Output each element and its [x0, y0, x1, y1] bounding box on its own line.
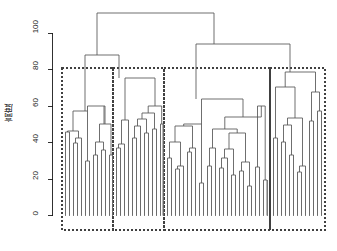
link-c1-12: [88, 106, 106, 124]
link-c4-11: [312, 92, 320, 121]
link-c4-6: [300, 166, 306, 216]
link-c3-7: [175, 126, 193, 148]
link-c2-11: [148, 106, 162, 124]
link-c3-15: [225, 149, 234, 175]
link-c3-18: [242, 162, 250, 186]
link-c4-5: [298, 172, 302, 216]
link-c3-17: [248, 186, 252, 216]
link-c2-6: [145, 133, 149, 216]
y-tick-label-80: 80: [32, 61, 42, 70]
link-c2-1: [117, 148, 121, 216]
link-c1-8: [102, 150, 106, 216]
y-tick-label-40: 40: [32, 134, 42, 143]
link-c3-1: [168, 158, 172, 216]
link-c1-7: [94, 155, 98, 216]
link-c1-3: [76, 138, 82, 216]
y-tick-label-100: 100: [32, 20, 42, 33]
link-c2-12: [125, 78, 155, 120]
link-c3-6: [190, 148, 196, 216]
dendrogram-plot: [0, 0, 337, 251]
link-c3-13: [222, 158, 228, 216]
link-c4-10: [318, 111, 322, 216]
y-tick-label-60: 60: [32, 98, 42, 107]
y-tick-label-20: 20: [32, 171, 42, 180]
link-c1-5: [86, 161, 90, 216]
link-c1-10: [110, 155, 113, 216]
link-c4-12: [285, 72, 315, 92]
link-root: [97, 13, 214, 55]
link-c4-1: [274, 138, 278, 216]
link-c1-1: [66, 132, 70, 216]
link-c3-12: [220, 168, 224, 216]
link-c4-2: [282, 142, 286, 216]
dendrogram-links: [66, 13, 322, 216]
y-axis: [48, 33, 53, 216]
link-c1-2: [74, 143, 78, 216]
link-c4-8: [276, 87, 296, 138]
link-c3-16: [240, 171, 244, 216]
link-c3-21: [256, 167, 260, 216]
link-c3-8: [200, 183, 204, 216]
y-axis-label: 高度: [4, 104, 34, 122]
link-c2-5: [135, 126, 141, 216]
link-c2-9: [142, 113, 155, 129]
link-c2-3: [122, 120, 129, 216]
link-c2-4: [133, 138, 137, 216]
link-c3-20: [213, 129, 238, 148]
link-c3-3: [178, 166, 184, 216]
link-c4-3: [290, 155, 294, 216]
link-c3-5: [188, 152, 192, 216]
link-c3-19: [229, 133, 246, 162]
link-c3-22: [264, 180, 268, 216]
link-c3-25: [202, 99, 244, 124]
link-c2-8: [153, 129, 157, 216]
link-c4-4: [284, 125, 292, 155]
link-c3-11: [210, 148, 216, 216]
link-left-super: [85, 55, 119, 111]
link-c4-9: [310, 121, 314, 216]
dendrogram-figure: 高度 0 20 40 60 80 100: [0, 0, 337, 251]
link-c3-10: [208, 166, 212, 216]
link-c3-14: [232, 175, 236, 216]
link-c3-2: [176, 169, 180, 216]
y-tick-label-0: 0: [32, 211, 42, 215]
link-c1-9: [96, 142, 104, 155]
link-c2-2: [119, 144, 125, 216]
link-c1-6: [73, 111, 88, 161]
